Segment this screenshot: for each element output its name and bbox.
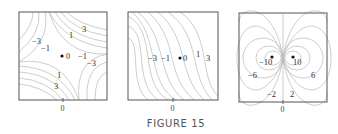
level-label: 1 xyxy=(57,70,61,80)
contour-svg-3: −10 10 −6 6 −2 2 0 xyxy=(239,13,329,113)
contour-lines xyxy=(237,11,331,105)
level-label: −6 xyxy=(248,70,257,80)
level-label: 3 xyxy=(206,53,210,63)
level-label: −1 xyxy=(78,51,87,61)
level-label: −2 xyxy=(267,89,276,99)
level-label: −3 xyxy=(87,58,96,68)
contour-plot-s-curves: −3 −1 0 1 3 0 xyxy=(128,12,220,112)
critical-point-marker xyxy=(60,54,63,57)
level-label: 0 xyxy=(66,51,70,61)
contour-plot-saddle: 3 1 −3 −1 0 −1 −3 1 3 0 xyxy=(19,12,109,112)
contour-lines xyxy=(128,12,218,100)
x-tick-label: 0 xyxy=(281,105,285,114)
level-label: 0 xyxy=(183,53,187,63)
x-tick-label: 0 xyxy=(171,104,175,113)
level-label: 10 xyxy=(293,57,302,67)
level-label: −3 xyxy=(148,53,157,63)
figure-caption: FIGURE 15 xyxy=(136,118,216,129)
level-label: −3 xyxy=(32,36,41,46)
critical-point-marker xyxy=(178,56,181,59)
level-label: −1 xyxy=(161,53,170,63)
contour-svg-2: −3 −1 0 1 3 0 xyxy=(128,12,220,112)
level-label: −10 xyxy=(259,57,272,67)
level-label: 1 xyxy=(69,30,73,40)
contour-plot-dipole: −10 10 −6 6 −2 2 0 xyxy=(239,13,329,113)
contour-svg-1: 3 1 −3 −1 0 −1 −3 1 3 0 xyxy=(19,12,109,112)
x-tick-label: 0 xyxy=(61,104,65,113)
level-label: 1 xyxy=(196,49,200,59)
level-label: 3 xyxy=(82,24,86,34)
level-label: 6 xyxy=(311,70,315,80)
level-label: 3 xyxy=(54,81,58,91)
level-label: 2 xyxy=(290,89,294,99)
level-label: −1 xyxy=(41,43,50,53)
